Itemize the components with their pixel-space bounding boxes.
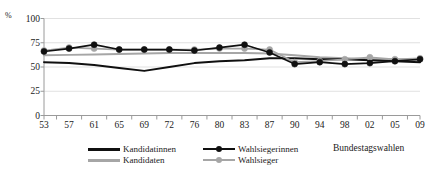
data-point <box>41 48 47 54</box>
legend-item[interactable]: Kandidatinnen <box>88 144 176 154</box>
legend-label: Kandidaten <box>123 155 164 165</box>
x-tick-label: 83 <box>240 120 250 130</box>
data-point <box>342 61 348 67</box>
legend-marker-icon <box>216 157 222 163</box>
legend-label: Wahlsiegerinnen <box>238 144 298 154</box>
legend-item[interactable]: Kandidaten <box>88 155 164 165</box>
series-line <box>44 58 420 71</box>
data-point <box>317 59 323 65</box>
data-point <box>417 56 423 62</box>
x-tick-label: 87 <box>265 120 275 130</box>
legend-item[interactable]: Wahlsiegerinnen <box>203 144 298 154</box>
data-point <box>191 48 197 54</box>
data-point <box>216 45 222 51</box>
legend-marker-icon <box>216 146 222 152</box>
x-tick-label: 76 <box>190 120 200 130</box>
x-tick-label: 90 <box>290 120 300 130</box>
x-tick-label: 05 <box>390 120 400 130</box>
data-point <box>116 47 122 53</box>
legend-swatch-icon <box>88 156 120 165</box>
data-point <box>367 60 373 66</box>
chart-legend: KandidatinnenKandidatenWahlsiegerinnenWa… <box>0 144 436 177</box>
legend-label: Kandidatinnen <box>123 144 176 154</box>
legend-swatch-icon <box>203 156 235 165</box>
data-point <box>292 61 298 67</box>
data-point <box>267 49 273 55</box>
x-tick-label: 57 <box>64 120 74 130</box>
data-point <box>91 42 97 48</box>
x-tick-label: 02 <box>365 120 375 130</box>
x-tick-label: 61 <box>89 120 99 130</box>
series-kandidatinnen <box>44 58 420 71</box>
x-tick-label: 09 <box>415 120 425 130</box>
data-point <box>242 42 248 48</box>
x-tick-label: 98 <box>340 120 350 130</box>
legend-label: Wahlsieger <box>238 155 278 165</box>
x-tick-label: 69 <box>140 120 150 130</box>
data-point <box>141 47 147 53</box>
data-point <box>367 54 373 60</box>
legend-swatch-icon <box>203 145 235 154</box>
x-tick-label: 65 <box>114 120 124 130</box>
data-point <box>66 46 72 52</box>
legend-swatch-icon <box>88 145 120 154</box>
x-axis-tick-labels: 53576165697276808387909498020509 <box>0 120 436 134</box>
data-point <box>166 47 172 53</box>
data-point <box>392 58 398 64</box>
chart-container: % 0255075100 535761656972768083879094980… <box>0 0 436 177</box>
x-tick-label: 94 <box>315 120 325 130</box>
x-tick-label: 53 <box>39 120 49 130</box>
x-tick-label: 80 <box>215 120 225 130</box>
x-tick-label: 72 <box>165 120 175 130</box>
legend-item[interactable]: Wahlsieger <box>203 155 278 165</box>
